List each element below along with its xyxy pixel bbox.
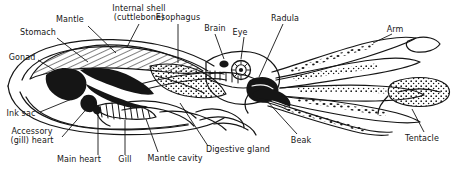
label-mantle: Mantle: [45, 15, 95, 24]
label-radula: Radula: [262, 14, 308, 23]
label-eye: Eye: [227, 28, 253, 37]
label-mantle-cavity: Mantle cavity: [140, 154, 210, 163]
label-gonad: Gonad: [0, 53, 44, 62]
label-accessory-heart: Accessory (gill) heart: [1, 127, 63, 145]
label-beak: Beak: [286, 136, 316, 145]
label-gill: Gill: [113, 155, 137, 164]
label-esophagus: Esophagus: [146, 13, 210, 22]
label-main-heart: Main heart: [50, 155, 108, 164]
anatomy-figure: Mantle Internal shell (cuttlebone) Esoph…: [0, 0, 454, 178]
label-tentacle: Tentacle: [400, 134, 444, 143]
label-stomach: Stomach: [9, 28, 67, 37]
label-digestive-gland: Digestive gland: [198, 145, 278, 154]
label-ink-sac: Ink sac: [1, 109, 41, 118]
label-arm: Arm: [381, 25, 409, 34]
